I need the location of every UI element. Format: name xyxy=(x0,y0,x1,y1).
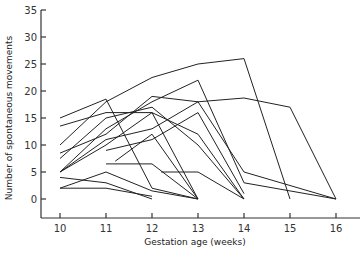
series-line xyxy=(106,164,198,199)
y-tick-label: 30 xyxy=(24,32,37,43)
y-tick-label: 5 xyxy=(31,167,37,178)
y-axis: 05101520253035 xyxy=(24,5,46,219)
y-axis-label: Number of spontaneous movements xyxy=(4,35,14,200)
x-tick-label: 12 xyxy=(146,223,159,234)
y-tick-label: 10 xyxy=(24,140,37,151)
series-line xyxy=(60,59,290,199)
series-lines xyxy=(60,59,336,199)
x-tick-label: 16 xyxy=(330,223,343,234)
x-tick-label: 10 xyxy=(54,223,67,234)
y-tick-label: 20 xyxy=(24,86,37,97)
x-axis-label: Gestation age (weeks) xyxy=(144,237,245,247)
x-tick-label: 11 xyxy=(100,223,113,234)
series-line xyxy=(60,172,198,199)
series-line xyxy=(60,80,336,199)
line-chart: 05101520253035 10111213141516 Gestation … xyxy=(0,0,362,253)
x-tick-label: 14 xyxy=(238,223,251,234)
x-tick-label: 13 xyxy=(192,223,205,234)
x-tick-label: 15 xyxy=(284,223,297,234)
y-tick-label: 35 xyxy=(24,5,37,16)
y-tick-label: 25 xyxy=(24,59,37,70)
y-tick-label: 0 xyxy=(31,194,37,205)
series-line xyxy=(60,188,152,196)
y-tick-label: 15 xyxy=(24,113,37,124)
x-axis: 10111213141516 xyxy=(41,213,360,234)
